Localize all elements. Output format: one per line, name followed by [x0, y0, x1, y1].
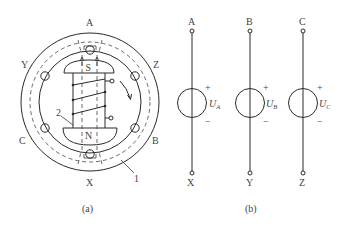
field-terminal-top [110, 79, 114, 83]
minus-C: − [317, 116, 323, 127]
label-top-C: C [299, 16, 306, 27]
label-S-pole: S [86, 62, 92, 73]
label-top-A: A [188, 16, 196, 27]
terminal-A [190, 29, 194, 33]
voltage-label-A: UA [209, 98, 220, 110]
rotation-arrow [120, 81, 130, 98]
conductor-A [84, 46, 96, 54]
plus-B: + [263, 82, 269, 93]
terminal-Z [301, 171, 305, 175]
label-top-B: B [246, 16, 253, 27]
flux-arrow-right [95, 57, 99, 66]
diagram-canvas: A X Y Z C B S N 2 1 (a) A X + − UA [0, 0, 341, 228]
label-Z: Z [153, 59, 159, 70]
conductor-X [84, 150, 96, 158]
label-B: B [152, 135, 159, 146]
field-winding [72, 79, 114, 120]
panel-a-generator: A X Y Z C B S N 2 1 (a) [19, 17, 159, 215]
minus-B: − [263, 116, 269, 127]
label-Y: Y [21, 59, 28, 70]
minus-A: − [205, 116, 211, 127]
label-A: A [86, 17, 94, 28]
label-bottom-Z: Z [299, 177, 305, 188]
plus-A: + [205, 82, 211, 93]
voltage-label-C: UC [319, 98, 331, 110]
plus-C: + [317, 82, 323, 93]
source-phase-C: C Z + − UC [289, 16, 332, 188]
callout-1-leader [121, 160, 134, 173]
source-phase-A: A X + − UA [178, 16, 221, 188]
label-X: X [86, 177, 94, 188]
panel-b-sources: A X + − UA B Y + − UB C Z + − [178, 16, 332, 215]
callout-1: 1 [134, 173, 139, 184]
terminal-Y [248, 171, 252, 175]
label-bottom-Y: Y [246, 177, 253, 188]
field-terminal-bottom [109, 116, 113, 120]
flux-arrow-left [80, 57, 84, 66]
callout-2-leader [61, 116, 73, 125]
caption-b: (b) [245, 203, 257, 215]
source-phase-B: B Y + − UB [236, 16, 278, 188]
callout-2: 2 [56, 107, 61, 118]
caption-a: (a) [82, 203, 93, 215]
label-C: C [19, 135, 26, 146]
terminal-C [301, 29, 305, 33]
terminal-B [248, 29, 252, 33]
terminal-X [190, 171, 194, 175]
label-bottom-X: X [187, 177, 195, 188]
label-N-pole: N [85, 130, 92, 141]
voltage-label-B: UB [266, 98, 277, 110]
